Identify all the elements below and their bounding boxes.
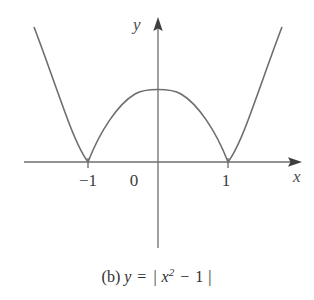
caption-exponent: 2 (169, 266, 175, 278)
caption-bar-close: | (207, 268, 212, 285)
tick-label-pos-one: 1 (214, 172, 238, 189)
caption-equals: = (135, 268, 148, 285)
tick-label-zero: 0 (122, 172, 146, 189)
curve-right-branch (228, 28, 282, 163)
y-axis-label: y (133, 16, 141, 33)
caption-minus: − (178, 268, 191, 285)
caption-bar-open: | (152, 268, 157, 285)
caption-one: 1 (195, 268, 203, 285)
plot-area (0, 0, 314, 265)
x-axis-label: x (293, 168, 301, 185)
curve-left-branch (34, 28, 88, 163)
figure-caption: (b) y = | x2 − 1 | (0, 268, 314, 286)
tick-label-neg-one: −1 (70, 172, 106, 189)
caption-base: x (162, 268, 169, 285)
caption-lhs: y (124, 268, 131, 285)
figure-container: y x −1 0 1 (b) y = | x2 − 1 | (0, 0, 314, 300)
caption-prefix: (b) (102, 268, 121, 285)
